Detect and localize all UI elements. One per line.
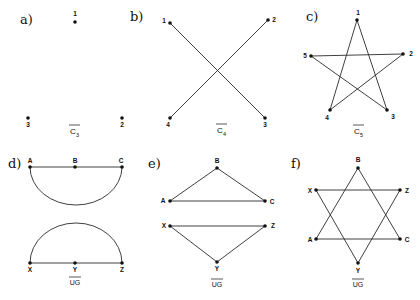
vertex-2 [266,18,270,22]
vertex-4 [168,116,172,120]
vertex-x [28,261,32,265]
caption: UG [353,281,364,288]
panel-label: c) [306,9,318,24]
vertex-b [356,166,360,170]
vertex-b [215,166,219,170]
vertex-1 [73,20,77,24]
vertex-label: 3 [391,113,395,120]
vertex-label: 5 [303,52,307,59]
vertex-label: 2 [272,16,276,23]
vertex-label: X [162,222,167,229]
edge-y-z [217,226,265,262]
vertex-label: 2 [409,50,413,57]
panel-label: a) [20,12,33,27]
panel-a-c3-complement: a) 1 2 3 C 3 [20,10,124,138]
vertex-label: 1 [162,17,166,24]
vertex-label: X [28,266,33,273]
vertex-label: Z [271,222,275,229]
panel-d-ug-arcs: d) A B C X Y Z UG [8,156,124,286]
edge-b-c [217,168,265,201]
arc-x-z [30,223,122,263]
vertex-3 [26,116,30,120]
panel-label: b) [130,9,143,24]
edge-x-y [316,190,358,263]
edge-2-4 [330,54,403,110]
vertex-label: B [73,157,78,164]
vertex-label: Y [356,267,361,274]
vertex-label: Z [405,187,409,194]
graph-figure: a) 1 2 3 C 3 b) 1 2 3 4 C 4 c) [0,0,420,300]
panel-e-ug-triangles: e) A B C X Y Z UG [148,156,275,288]
arc-a-c [30,167,122,205]
vertex-a [28,165,32,169]
panel-label: e) [148,156,161,171]
vertex-y [73,261,77,265]
vertex-label: 2 [120,121,124,128]
edge-a-b [170,168,217,201]
panel-c-c5-complement: c) 1 2 3 4 5 C 5 [303,9,413,138]
vertex-z [263,224,267,228]
edge-5-3 [311,56,387,110]
vertex-a [314,237,318,241]
vertex-label: A [28,157,33,164]
edge-1-3 [357,20,387,110]
vertex-4 [328,108,332,112]
vertex-label: X [308,187,313,194]
caption: UG [212,281,223,288]
vertex-label: Y [215,265,220,272]
vertex-label: C [405,236,410,243]
edge-5-2 [311,54,403,56]
vertex-label: C [119,157,124,164]
vertex-label: C [270,198,275,205]
vertex-1 [168,21,172,25]
edge-2-4 [170,20,268,118]
vertex-3 [263,116,267,120]
vertex-3 [385,108,389,112]
caption-subscript: 3 [76,132,79,138]
vertex-label: 3 [263,121,267,128]
vertex-y [356,261,360,265]
vertex-label: A [161,197,166,204]
edge-y-z [358,190,400,263]
vertex-c [398,237,402,241]
vertex-label: 1 [356,9,360,16]
vertex-z [398,188,402,192]
panel-label: d) [8,156,21,171]
vertex-5 [309,54,313,58]
vertex-label: 4 [325,114,329,121]
vertex-2 [401,52,405,56]
edge-a-b [316,168,358,239]
edge-1-4 [330,20,357,110]
vertex-label: B [215,157,220,164]
panel-f-ug-hexagram: f) A B C X Y Z UG [291,156,410,288]
vertex-label: B [356,156,361,163]
vertex-label: 3 [26,121,30,128]
vertex-2 [120,116,124,120]
edge-b-c [358,168,400,239]
vertex-label: Y [73,266,78,273]
vertex-1 [355,18,359,22]
vertex-c [263,199,267,203]
caption-subscript: 5 [360,132,363,138]
vertex-b [73,165,77,169]
vertex-c [120,165,124,169]
caption-subscript: 4 [223,131,226,137]
vertex-z [120,261,124,265]
edge-x-y [170,226,217,262]
vertex-label: Z [120,266,124,273]
vertex-label: 1 [73,10,77,17]
panel-label: f) [291,156,301,171]
caption: UG [70,279,81,286]
panel-b-c4-complement: b) 1 2 3 4 C 4 [130,9,276,137]
vertex-label: A [308,236,313,243]
vertex-y [215,260,219,264]
vertex-x [168,224,172,228]
vertex-a [168,199,172,203]
vertex-x [314,188,318,192]
vertex-label: 4 [166,121,170,128]
